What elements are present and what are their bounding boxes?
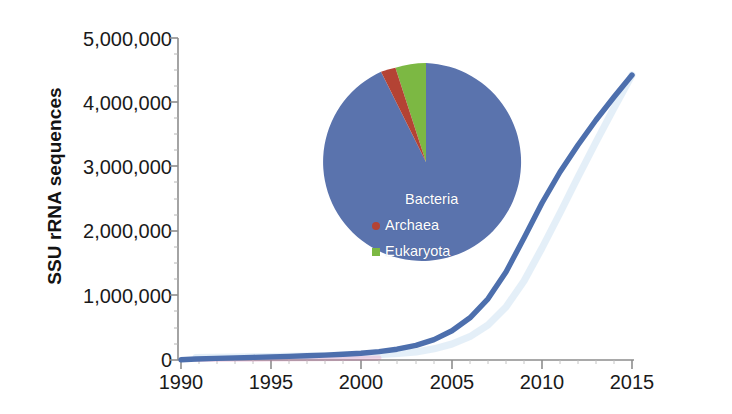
x-axis-tick-labels: 1990 1995 2000 2005 2010 2015 <box>0 372 732 412</box>
x-tick-label: 2015 <box>587 372 677 392</box>
x-tick-label: 1995 <box>226 372 316 392</box>
figure-container: SSU rRNA sequences 5,000,000 4,000,000 3… <box>0 0 732 414</box>
x-tick-label: 2010 <box>497 372 587 392</box>
archaea-swatch-icon <box>372 222 380 230</box>
eukaryota-swatch-icon <box>372 248 380 256</box>
x-tick-label: 2000 <box>316 372 406 392</box>
pie-legend-label: Eukaryota <box>385 243 450 259</box>
x-tick-label: 2005 <box>407 372 497 392</box>
pie-legend-label: Archaea <box>385 217 439 233</box>
pie-legend-item-eukaryota: Eukaryota <box>372 244 450 259</box>
pie-legend-item-archaea: Archaea <box>372 218 439 233</box>
pie-legend: Bacteria Archaea Eukaryota <box>0 0 732 414</box>
pie-legend-label: Bacteria <box>405 191 458 207</box>
pie-legend-item-bacteria: Bacteria <box>392 192 458 207</box>
x-tick-label: 1990 <box>136 372 226 392</box>
